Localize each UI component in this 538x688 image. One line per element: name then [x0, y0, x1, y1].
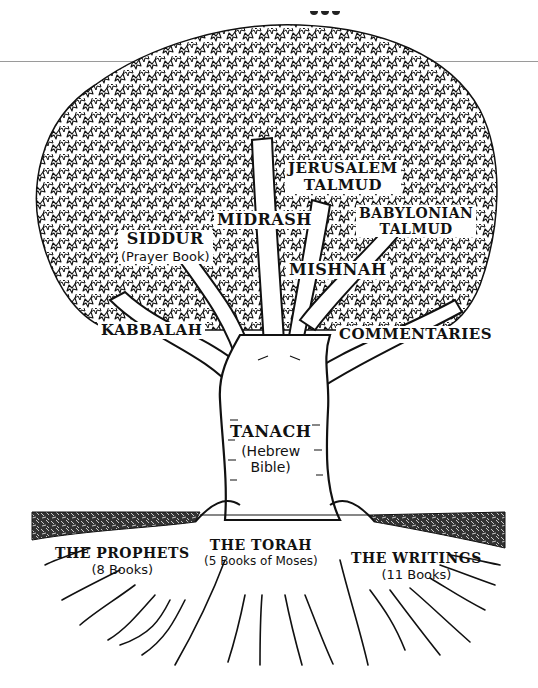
- label-commentaries: COMMENTARIES: [336, 326, 495, 343]
- tree-illustration: [0, 0, 538, 688]
- label-the-writings: THE WRITINGS (11 Books): [348, 550, 485, 582]
- label-siddur: SIDDUR (Prayer Book): [118, 230, 213, 264]
- commentaries-title: COMMENTARIES: [339, 327, 492, 342]
- mishnah-title: MISHNAH: [289, 262, 387, 278]
- kabbalah-title: KABBALAH: [101, 323, 202, 338]
- label-the-torah: THE TORAH (5 Books of Moses): [201, 537, 321, 568]
- label-mishnah: MISHNAH: [286, 261, 390, 279]
- siddur-subtitle: (Prayer Book): [121, 250, 210, 263]
- jewish-texts-tree-diagram: JERUSALEM TALMUD BABYLONIAN TALMUD MIDRA…: [0, 0, 538, 688]
- tanach-subtitle-line1: (Hebrew: [230, 444, 311, 458]
- jerusalem-talmud-line2: TALMUD: [288, 178, 398, 193]
- label-the-prophets: THE PROPHETS (8 Books): [52, 545, 193, 577]
- label-tanach: TANACH (Hebrew Bible): [227, 423, 314, 475]
- label-jerusalem-talmud: JERUSALEM TALMUD: [285, 160, 401, 194]
- babylonian-talmud-line1: BABYLONIAN: [359, 206, 473, 220]
- siddur-title: SIDDUR: [121, 231, 210, 247]
- label-kabbalah: KABBALAH: [98, 322, 205, 339]
- label-babylonian-talmud: BABYLONIAN TALMUD: [356, 205, 476, 237]
- writings-title: THE WRITINGS: [351, 551, 482, 565]
- label-midrash: MIDRASH: [214, 211, 315, 229]
- prophets-title: THE PROPHETS: [55, 546, 190, 560]
- torah-title: THE TORAH: [204, 538, 318, 552]
- babylonian-talmud-line2: TALMUD: [359, 222, 473, 236]
- tanach-title: TANACH: [230, 424, 311, 440]
- torah-subtitle: (5 Books of Moses): [204, 555, 318, 567]
- midrash-title: MIDRASH: [217, 212, 312, 228]
- jerusalem-talmud-line1: JERUSALEM: [288, 161, 398, 176]
- tanach-subtitle-line2: Bible): [230, 460, 311, 474]
- writings-subtitle: (11 Books): [351, 568, 482, 581]
- prophets-subtitle: (8 Books): [55, 563, 190, 576]
